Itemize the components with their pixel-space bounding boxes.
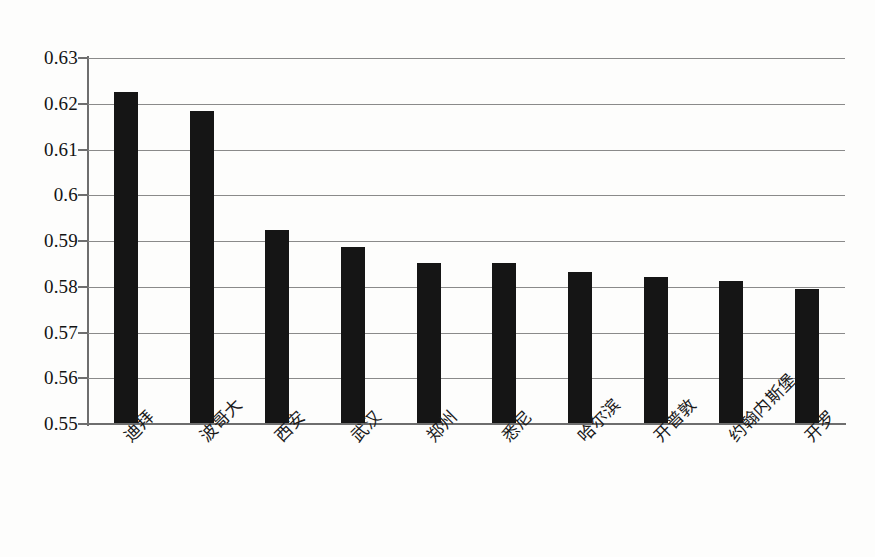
x-axis-tick-label: 波哥大 [196, 395, 247, 446]
x-axis-tick-label: 郑州 [423, 407, 461, 445]
x-axis-tick-label: 开罗 [801, 407, 839, 445]
x-axis-tick-label: 西安 [271, 407, 309, 445]
x-axis-tick-labels: 迪拜波哥大西安武汉郑州悉尼哈尔滨开普敦约翰内斯堡开罗 [0, 0, 875, 557]
x-axis-tick-label: 迪拜 [120, 407, 158, 445]
x-axis-tick-label: 哈尔滨 [574, 395, 625, 446]
bar-chart-figure: 0.630.620.610.60.590.580.570.560.55 迪拜波哥… [0, 0, 875, 557]
x-axis-tick-label: 开普敦 [650, 395, 701, 446]
x-axis-tick-label: 约翰内斯堡 [725, 370, 800, 445]
x-axis-tick-label: 悉尼 [498, 407, 536, 445]
x-axis-tick-label: 武汉 [347, 407, 385, 445]
